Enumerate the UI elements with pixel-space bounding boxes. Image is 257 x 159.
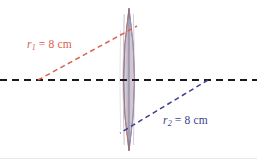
radius-label-r1-value: = 8 cm [36,38,72,50]
radius-label-r2-value: = 8 cm [172,114,208,126]
radius-line-r1 [38,26,137,80]
figure-canvas [0,0,257,159]
radius-label-r1: r1 = 8 cm [27,38,72,52]
radius-label-r2: r2 = 8 cm [163,114,208,128]
lens-radii-figure: r1 = 8 cm r2 = 8 cm [0,0,257,159]
